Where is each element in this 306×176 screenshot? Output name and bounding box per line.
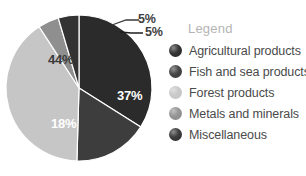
pie-chart-svg bbox=[0, 0, 175, 176]
legend-item[interactable]: Fish and sea products bbox=[166, 61, 306, 82]
pie-chart-figure: 37% 18% 44% 5% 5% Legend Agricultural pr… bbox=[0, 0, 306, 176]
pie-chart-area: 37% 18% 44% 5% 5% bbox=[0, 0, 175, 176]
legend-item-label: Fish and sea products bbox=[189, 65, 306, 79]
legend-item[interactable]: Miscellaneous bbox=[166, 124, 306, 145]
circle-swatch-dark-gray bbox=[169, 65, 182, 78]
legend-item-label: Metals and minerals bbox=[189, 107, 299, 121]
legend-item[interactable]: Agricultural products bbox=[166, 40, 306, 61]
circle-swatch-light-gray bbox=[169, 86, 182, 99]
legend-item[interactable]: Forest products bbox=[166, 82, 306, 103]
legend-title: Legend bbox=[188, 22, 306, 36]
legend: Legend Agricultural productsFish and sea… bbox=[166, 22, 306, 162]
leader-line-metals bbox=[112, 20, 139, 25]
pie-slices-group bbox=[6, 15, 152, 161]
legend-item-label: Forest products bbox=[189, 86, 274, 100]
legend-item[interactable]: Metals and minerals bbox=[166, 103, 306, 124]
legend-list: Agricultural productsFish and sea produc… bbox=[166, 40, 306, 145]
circle-swatch-medium-gray bbox=[169, 107, 182, 120]
circle-swatch-near-black bbox=[169, 128, 182, 141]
circle-swatch-dark bbox=[169, 44, 182, 57]
legend-item-label: Agricultural products bbox=[189, 44, 301, 58]
legend-item-label: Miscellaneous bbox=[189, 128, 267, 142]
leader-line-miscellaneous bbox=[120, 32, 143, 33]
